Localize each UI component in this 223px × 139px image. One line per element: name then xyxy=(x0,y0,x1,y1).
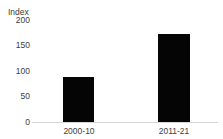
y-tick-label-50: 50 xyxy=(21,92,30,101)
plot-area xyxy=(32,20,218,122)
chart-title-clipped xyxy=(0,0,223,5)
x-tick-label-2000-10: 2000-10 xyxy=(48,126,110,136)
y-tick-label-200: 200 xyxy=(16,16,30,25)
y-tick-label-150: 150 xyxy=(16,41,30,50)
y-tick-label-100: 100 xyxy=(16,67,30,76)
bar-2011-21 xyxy=(158,34,190,122)
y-tick-label-0: 0 xyxy=(25,118,30,127)
x-axis-baseline xyxy=(32,122,218,123)
bar-chart-figure: Index 200 150 100 50 0 2000-10 2011-21 xyxy=(0,0,223,139)
bar-2000-10 xyxy=(63,77,94,122)
x-tick-label-2011-21: 2011-21 xyxy=(143,126,205,136)
